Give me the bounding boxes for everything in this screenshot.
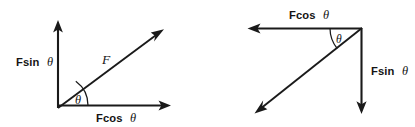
figure-background: [0, 0, 415, 127]
left-fcos-text: Fcos: [96, 112, 123, 124]
left-fsin-label: Fsin θ: [16, 55, 53, 69]
right-fcos-text: Fcos: [289, 9, 316, 21]
left-fcos-theta-symbol: θ: [130, 111, 136, 125]
right-fcos-theta-symbol: θ: [323, 8, 329, 22]
right-fsin-label: Fsin θ: [371, 64, 408, 78]
left-theta-label: θ: [75, 93, 81, 107]
left-fcos-label: Fcos θ: [96, 111, 136, 125]
force-diagram-svg: Fsin θ Fcos θ F θ: [0, 0, 415, 127]
left-force-f-label: F: [101, 52, 111, 67]
right-fsin-theta-symbol: θ: [402, 64, 408, 78]
right-fsin-text: Fsin: [371, 65, 395, 77]
right-fcos-label: Fcos θ: [289, 8, 329, 22]
force-diagram-figure: Fsin θ Fcos θ F θ: [0, 0, 415, 127]
left-fsin-text: Fsin: [16, 56, 40, 68]
left-fsin-theta-symbol: θ: [47, 55, 53, 69]
right-theta-label: θ: [336, 33, 342, 46]
